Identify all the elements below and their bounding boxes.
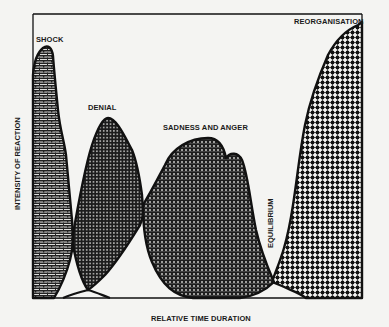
x-axis-label: RELATIVE TIME DURATION [151, 314, 251, 323]
diagram-canvas [0, 0, 389, 327]
curve-shock [33, 46, 73, 298]
label-sadness-anger: SADNESS AND ANGER [163, 123, 248, 132]
curve-denial [72, 118, 143, 290]
label-denial: DENIAL [88, 103, 117, 112]
grief-curve-diagram: SHOCK DENIAL SADNESS AND ANGER REORGANIS… [0, 0, 389, 327]
label-equilibrium: EQUILIBRIUM [266, 198, 275, 248]
curve-reorganisation [272, 22, 362, 298]
y-axis-label: INTENSITY OF REACTION [13, 117, 22, 210]
denial-cross-strokes [63, 290, 110, 298]
label-reorganisation: REORGANISATION [294, 17, 364, 26]
label-shock: SHOCK [36, 35, 64, 44]
curve-sadness-anger [143, 138, 274, 298]
